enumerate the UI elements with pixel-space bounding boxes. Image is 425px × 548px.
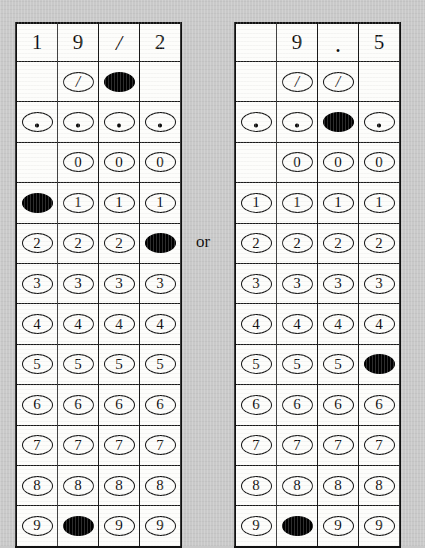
bubble-9-col3[interactable]: 9 [104,516,135,536]
left-grid-cell-5-col3[interactable]: 5 [99,344,140,384]
right-grid-cell-9-col1[interactable]: 9 [235,506,277,547]
left-grid-cell-6-col4[interactable]: 6 [140,385,182,425]
bubble-6-col3[interactable]: 6 [323,395,354,415]
bubble-decimal-point-col1[interactable] [22,112,53,132]
left-grid-cell-4-col3[interactable]: 4 [99,304,140,344]
bubble-2-col2[interactable]: 2 [282,233,313,253]
bubble-6-col2[interactable]: 6 [63,395,94,415]
right-grid-cell-7-col1[interactable]: 7 [235,425,277,465]
left-grid-cell-0-col2[interactable]: 0 [58,142,99,182]
right-grid-cell-0-col4[interactable]: 0 [359,142,401,182]
bubble-1-col2[interactable]: 1 [282,193,313,213]
bubble-1-col4[interactable]: 1 [145,193,176,213]
left-grid-cell-decimal-point-col3[interactable] [99,102,140,142]
bubble-8-col1[interactable]: 8 [22,476,53,496]
right-grid-cell-3-col1[interactable]: 3 [235,263,277,303]
bubble-8-col3[interactable]: 8 [323,476,354,496]
bubble-fraction-slash-col2[interactable]: / [282,72,313,92]
left-grid-cell-5-col1[interactable]: 5 [16,344,58,384]
left-grid-cell-7-col1[interactable]: 7 [16,425,58,465]
filled-bubble-5-col4[interactable]: 5 [364,354,395,374]
bubble-4-col2[interactable]: 4 [282,314,313,334]
bubble-0-col4[interactable]: 0 [145,152,176,172]
bubble-5-col3[interactable]: 5 [104,354,135,374]
left-grid-cell-5-col2[interactable]: 5 [58,344,99,384]
bubble-3-col3[interactable]: 3 [104,274,135,294]
bubble-1-col3[interactable]: 1 [104,193,135,213]
right-grid-cell-3-col3[interactable]: 3 [318,263,359,303]
bubble-7-col4[interactable]: 7 [364,435,395,455]
right-grid-cell-2-col2[interactable]: 2 [277,223,318,263]
right-grid-cell-3-col4[interactable]: 3 [359,263,401,303]
bubble-3-col1[interactable]: 3 [22,274,53,294]
bubble-9-col1[interactable]: 9 [22,516,53,536]
right-grid-cell-1-col1[interactable]: 1 [235,183,277,223]
right-grid-cell-fraction-slash-col2[interactable]: / [277,62,318,102]
left-grid-header-cell-col3[interactable]: / [99,23,140,62]
right-grid-header-cell-col4[interactable]: 5 [359,23,401,62]
right-grid-cell-7-col4[interactable]: 7 [359,425,401,465]
right-grid-cell-4-col3[interactable]: 4 [318,304,359,344]
left-grid-cell-6-col2[interactable]: 6 [58,385,99,425]
bubble-1-col2[interactable]: 1 [63,193,94,213]
right-grid-cell-4-col2[interactable]: 4 [277,304,318,344]
bubble-4-col4[interactable]: 4 [364,314,395,334]
bubble-5-col2[interactable]: 5 [282,354,313,374]
bubble-7-col3[interactable]: 7 [323,435,354,455]
bubble-4-col1[interactable]: 4 [241,314,272,334]
bubble-6-col4[interactable]: 6 [145,395,176,415]
right-grid-cell-6-col3[interactable]: 6 [318,385,359,425]
right-grid-header-cell-col3[interactable]: . [318,23,359,62]
right-grid-header-cell-col1[interactable] [235,23,277,62]
right-grid-cell-3-col2[interactable]: 3 [277,263,318,303]
right-grid-cell-4-col4[interactable]: 4 [359,304,401,344]
bubble-1-col4[interactable]: 1 [364,193,395,213]
left-grid-cell-7-col4[interactable]: 7 [140,425,182,465]
left-grid-cell-0-col3[interactable]: 0 [99,142,140,182]
right-grid-cell-fraction-slash-col3[interactable]: / [318,62,359,102]
left-grid-cell-8-col1[interactable]: 8 [16,465,58,505]
left-grid-cell-6-col1[interactable]: 6 [16,385,58,425]
filled-bubble-fraction-slash-col3[interactable]: / [104,72,135,92]
right-grid-cell-2-col3[interactable]: 2 [318,223,359,263]
right-grid-cell-8-col2[interactable]: 8 [277,465,318,505]
right-grid-cell-decimal-point-col2[interactable] [277,102,318,142]
left-grid-cell-3-col3[interactable]: 3 [99,263,140,303]
bubble-6-col1[interactable]: 6 [22,395,53,415]
bubble-decimal-point-col4[interactable] [364,112,395,132]
bubble-5-col3[interactable]: 5 [323,354,354,374]
left-grid-cell-1-col1[interactable]: 1 [16,183,58,223]
left-grid-header-cell-col4[interactable]: 2 [140,23,182,62]
left-grid-cell-9-col3[interactable]: 9 [99,506,140,547]
bubble-6-col3[interactable]: 6 [104,395,135,415]
bubble-0-col4[interactable]: 0 [364,152,395,172]
bubble-4-col2[interactable]: 4 [63,314,94,334]
right-grid-cell-6-col4[interactable]: 6 [359,385,401,425]
right-grid-cell-6-col1[interactable]: 6 [235,385,277,425]
left-grid-cell-2-col2[interactable]: 2 [58,223,99,263]
right-grid-cell-6-col2[interactable]: 6 [277,385,318,425]
left-grid-cell-decimal-point-col1[interactable] [16,102,58,142]
right-grid-cell-decimal-point-col4[interactable] [359,102,401,142]
right-grid-header-cell-col2[interactable]: 9 [277,23,318,62]
filled-bubble-decimal-point-col3[interactable] [323,112,354,132]
bubble-4-col4[interactable]: 4 [145,314,176,334]
bubble-4-col3[interactable]: 4 [323,314,354,334]
bubble-2-col4[interactable]: 2 [364,233,395,253]
bubble-decimal-point-col3[interactable] [104,112,135,132]
bubble-3-col2[interactable]: 3 [282,274,313,294]
right-grid-cell-9-col3[interactable]: 9 [318,506,359,547]
bubble-8-col4[interactable]: 8 [364,476,395,496]
bubble-8-col3[interactable]: 8 [104,476,135,496]
right-grid-cell-9-col2[interactable]: 9 [277,506,318,547]
left-grid-cell-2-col4[interactable]: 2 [140,223,182,263]
left-grid-cell-4-col2[interactable]: 4 [58,304,99,344]
bubble-2-col1[interactable]: 2 [241,233,272,253]
filled-bubble-9-col2[interactable]: 9 [282,516,313,536]
bubble-8-col4[interactable]: 8 [145,476,176,496]
left-grid-cell-3-col1[interactable]: 3 [16,263,58,303]
left-grid-cell-fraction-slash-col3[interactable]: / [99,62,140,102]
bubble-0-col2[interactable]: 0 [282,152,313,172]
bubble-0-col3[interactable]: 0 [104,152,135,172]
bubble-7-col2[interactable]: 7 [282,435,313,455]
